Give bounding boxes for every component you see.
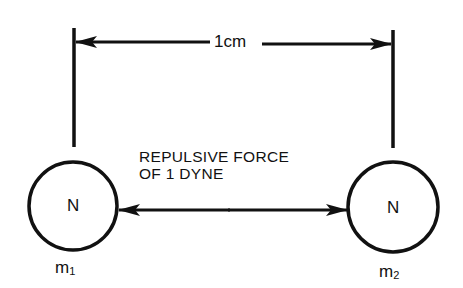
mass-subscript: 2 — [393, 269, 399, 281]
force-label: REPULSIVE FORCE OF 1 DYNE — [139, 148, 289, 182]
mass-subscript: 1 — [69, 265, 75, 277]
force-label-line1: REPULSIVE FORCE — [139, 148, 289, 165]
pole-symbol-m1: N — [67, 196, 79, 216]
force-label-line2: OF 1 DYNE — [139, 165, 289, 182]
distance-label: 1cm — [210, 32, 250, 52]
mass-label-m2: m2 — [379, 262, 399, 282]
mass-label-m1: m1 — [55, 258, 75, 278]
mass-base: m — [55, 258, 69, 277]
mass-base: m — [379, 262, 393, 281]
pole-symbol-m2: N — [387, 198, 399, 218]
